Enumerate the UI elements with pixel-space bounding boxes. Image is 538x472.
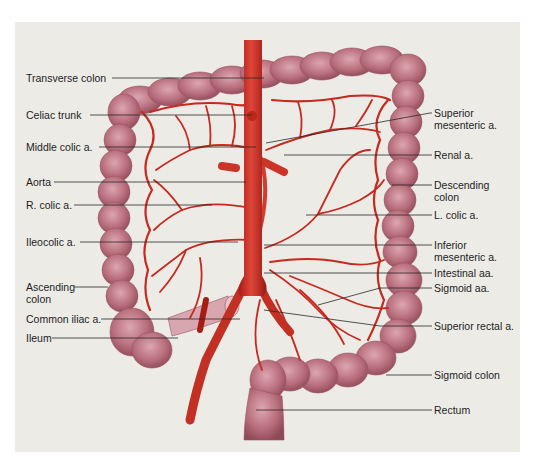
label-inferior-mesenteric-a: Inferior mesenteric a. [434,239,497,263]
label-descending-colon: Descending colon [434,179,489,203]
label-superior-mesenteric-a: Superior mesenteric a. [434,107,497,131]
label-inferior-mesenteric-a-line1: Inferior [434,239,497,251]
label-superior-rectal-a: Superior rectal a. [434,320,514,332]
label-renal-a: Renal a. [434,149,473,161]
label-intestinal-aa: Intestinal aa. [434,267,494,279]
anatomy-illustration [0,0,538,472]
label-celiac-trunk: Celiac trunk [26,109,81,121]
label-ascending-colon-line1: Ascending [26,281,75,293]
label-sigmoid-aa: Sigmoid aa. [434,282,489,294]
label-r-colic-a: R. colic a. [26,199,72,211]
label-superior-mesenteric-a-line1: Superior [434,107,497,119]
label-common-iliac-a: Common iliac a. [26,313,101,325]
label-middle-colic-a: Middle colic a. [26,141,93,153]
label-sigmoid-colon: Sigmoid colon [434,369,500,381]
label-descending-colon-line1: Descending [434,179,489,191]
label-superior-mesenteric-a-line2: mesenteric a. [434,119,497,131]
label-ascending-colon: Ascending colon [26,281,75,305]
label-inferior-mesenteric-a-line2: mesenteric a. [434,251,497,263]
label-ascending-colon-line2: colon [26,293,75,305]
label-ileum: Ileum [26,332,52,344]
label-descending-colon-line2: colon [434,191,489,203]
label-l-colic-a: L. colic a. [434,209,478,221]
label-rectum: Rectum [434,404,470,416]
label-aorta: Aorta [26,176,51,188]
label-ileocolic-a: Ileocolic a. [26,236,76,248]
label-transverse-colon: Transverse colon [26,72,106,84]
